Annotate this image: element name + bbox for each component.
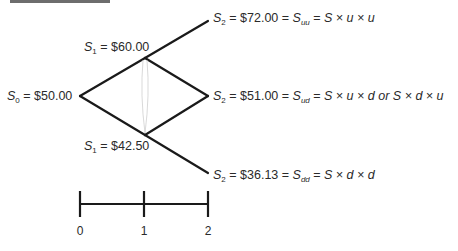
node-s2-uu-label: S2 = $72.00 = Suu = S × u × u <box>213 11 375 25</box>
timeline-tick-0: 0 <box>77 224 84 238</box>
node-s2-dd-label: S2 = $36.13 = Sdd = S × d × d <box>213 168 375 182</box>
timeline-tick-2: 2 <box>205 224 212 238</box>
edge-s0-up <box>80 58 145 96</box>
edge-s0-down <box>80 96 145 135</box>
node-s1-down-label: S1 = $42.50 <box>84 139 149 153</box>
node-s2-ud-label: S2 = $51.00 = Sud = S × u × d or S × d ×… <box>213 89 444 103</box>
edge-up-uu <box>145 21 208 58</box>
timeline-tick-1: 1 <box>141 224 148 238</box>
edge-up-ud <box>145 58 208 96</box>
timeline <box>80 191 208 217</box>
pencil-mark <box>142 60 145 133</box>
edge-down-ud <box>145 96 208 135</box>
pencil-mark <box>145 60 148 133</box>
binomial-tree-lines <box>0 0 458 251</box>
node-s1-up-label: S1 = $60.00 <box>84 40 149 54</box>
node-s0-label: S0 = $50.00 <box>7 89 72 103</box>
edge-down-dd <box>145 135 208 173</box>
